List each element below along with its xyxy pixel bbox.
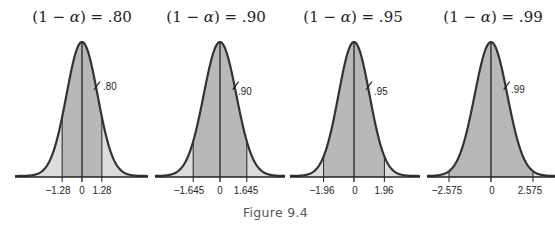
panel-3-area-label: .95	[374, 85, 388, 97]
panel-2-tick-right: 1.645	[234, 184, 258, 196]
panel-2-title: (1 − α) = .90	[166, 8, 265, 26]
figure-9-4: (1 − α) = .80 .80 −1.28 0 1.28 (1 − α) =…	[0, 0, 555, 228]
panel-1-tick-left: −1.28	[46, 184, 71, 196]
panel-1-title: (1 − α) = .80	[32, 8, 131, 26]
panel-2-tick-left: −1.645	[174, 184, 204, 196]
panel-2-tick-center: 0	[217, 184, 222, 196]
panel-3-tick-left: −1.96	[310, 184, 335, 196]
panel-1-tick-center: 0	[79, 184, 84, 196]
panel-4-area-label: .99	[511, 83, 525, 95]
panel-3-tick-center: 0	[352, 184, 357, 196]
panel-3-tick-right: 1.96	[374, 184, 393, 196]
panel-4-tick-right: 2.575	[518, 184, 542, 196]
panel-3-title: (1 − α) = .95	[303, 8, 402, 26]
panel-1-tick-right: 1.28	[92, 184, 111, 196]
figure-caption: Figure 9.4	[243, 205, 308, 220]
panel-1-area-label: .80	[103, 80, 117, 92]
panel-2-area-label: .90	[238, 85, 252, 97]
panel-4-title: (1 − α) = .99	[443, 8, 542, 26]
panel-4-tick-left: −2.575	[432, 184, 462, 196]
panel-4-tick-center: 0	[489, 184, 494, 196]
